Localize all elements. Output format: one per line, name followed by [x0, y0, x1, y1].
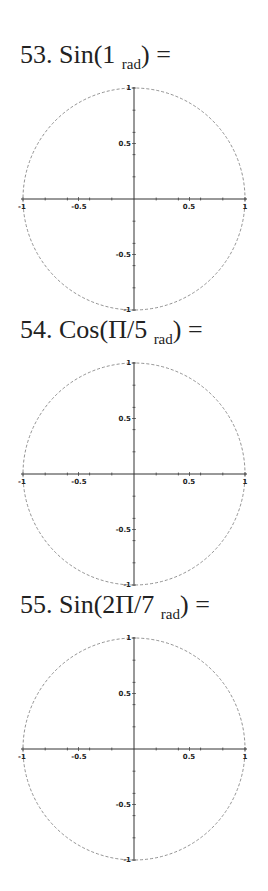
equals: ) =: [173, 315, 203, 344]
argument: 2Π/7: [102, 590, 154, 619]
x-tick-neg05: -0.5: [71, 478, 86, 486]
y-tick-neg05: -0.5: [116, 526, 131, 534]
y-tick-neg1: -1: [123, 306, 131, 314]
x-tick-neg1: -1: [18, 203, 26, 211]
y-tick-neg05: -0.5: [116, 801, 131, 809]
x-tick-neg1: -1: [18, 753, 26, 761]
x-tick-pos05: 0.5: [183, 478, 196, 486]
y-tick-neg05: -0.5: [116, 251, 131, 259]
x-tick-pos1: 1: [243, 203, 248, 211]
unit-subscript: rad: [122, 56, 141, 72]
x-tick-neg05: -0.5: [71, 203, 86, 211]
y-tick-neg1: -1: [123, 581, 131, 589]
problem-54-title: 54. Cos(Π/5 rad) =: [20, 317, 203, 347]
problem-number: 55.: [20, 590, 53, 619]
function-name: Sin(: [59, 40, 102, 69]
x-tick-pos1: 1: [243, 753, 248, 761]
problem-number: 54.: [20, 315, 53, 344]
y-tick-pos1: 1: [126, 84, 131, 92]
problem-55-title: 55. Sin(2Π/7 rad) =: [20, 592, 210, 622]
x-tick-neg1: -1: [18, 478, 26, 486]
y-tick-pos05: 0.5: [119, 690, 132, 698]
equals: ) =: [141, 40, 171, 69]
unit-circle-53: -1 -0.5 0.5 1 1 0.5 -0.5 -1: [0, 79, 268, 319]
function-name: Sin(: [59, 590, 102, 619]
problem-53-title: 53. Sin(1 rad) =: [20, 42, 171, 72]
unit-subscript: rad: [154, 331, 173, 347]
argument: Π/5: [108, 315, 147, 344]
unit-subscript: rad: [161, 606, 180, 622]
y-tick-pos05: 0.5: [119, 140, 132, 148]
function-name: Cos(: [59, 315, 108, 344]
y-tick-pos1: 1: [126, 634, 131, 642]
problem-number: 53.: [20, 40, 53, 69]
y-tick-neg1: -1: [123, 856, 131, 864]
unit-circle-55: -1 -0.5 0.5 1 1 0.5 -0.5 -1: [0, 629, 268, 869]
unit-circle-54: -1 -0.5 0.5 1 1 0.5 -0.5 -1: [0, 354, 268, 594]
x-tick-pos1: 1: [243, 478, 248, 486]
equals: ) =: [180, 590, 210, 619]
argument: 1: [102, 40, 115, 69]
y-tick-pos05: 0.5: [119, 415, 132, 423]
x-tick-pos05: 0.5: [183, 203, 196, 211]
x-tick-neg05: -0.5: [71, 753, 86, 761]
y-tick-pos1: 1: [126, 359, 131, 367]
x-tick-pos05: 0.5: [183, 753, 196, 761]
